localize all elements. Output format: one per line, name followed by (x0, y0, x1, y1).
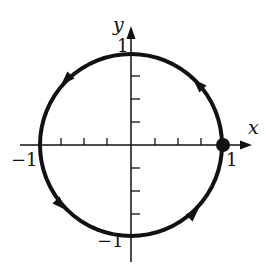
x-tick-label-neg: −1 (11, 149, 38, 170)
x-tick-label-pos: 1 (226, 149, 237, 170)
x-axis-arrowhead-icon (240, 141, 252, 150)
x-axis-label: x (248, 116, 259, 138)
direction-arrows (53, 72, 207, 222)
y-tick-label-neg: −1 (97, 230, 124, 251)
y-axis (127, 26, 141, 262)
unit-circle-diagram: y x 1 1 −1 −1 (0, 0, 266, 267)
y-axis-label: y (112, 13, 124, 35)
y-tick-label-pos: 1 (117, 35, 128, 56)
